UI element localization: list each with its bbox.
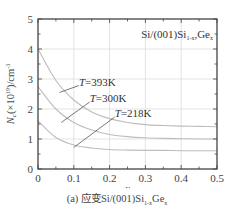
figure-caption: (a) 应变Si/(001)Si1-xGex [0, 190, 234, 206]
curve-t218k [38, 121, 217, 151]
line-chart: T=393KT=300KT=218K00.10.20.30.40.5012345… [0, 0, 234, 188]
caption-text: (a) 应变Si/(001)Si [67, 193, 144, 204]
x-tick-label: 0 [35, 172, 41, 184]
caption-ge: Ge [152, 193, 164, 204]
y-tick-label: 1 [28, 133, 34, 145]
series-label: T=393K [79, 76, 116, 88]
caption-sub1: 1-x [144, 200, 152, 206]
material-annotation: Si/(001)Si1-x,Gex [141, 28, 213, 41]
y-tick-label: 0 [28, 163, 34, 175]
x-tick-label: 0.5 [210, 172, 224, 184]
caption-sub2: x [164, 200, 167, 206]
leader-line [74, 117, 115, 147]
y-tick-label: 3 [28, 73, 34, 85]
series-label: T=218K [115, 107, 152, 119]
x-tick-label: 0.4 [174, 172, 188, 184]
y-axis-label: Nc(×1019)/cm-3 [5, 64, 18, 125]
y-tick-label: 2 [28, 103, 34, 115]
x-axis-label: x [124, 182, 130, 188]
y-tick-label: 4 [28, 43, 34, 55]
y-tick-label: 5 [28, 13, 34, 25]
x-tick-label: 0.3 [139, 172, 153, 184]
x-tick-label: 0.1 [67, 172, 81, 184]
x-tick-label: 0.2 [103, 172, 117, 184]
series-label: T=300K [90, 92, 127, 104]
leader-line [61, 102, 89, 123]
plot-frame [38, 19, 217, 169]
